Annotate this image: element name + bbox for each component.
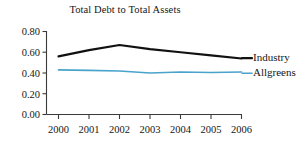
legend-label-industry: Industry bbox=[253, 51, 290, 63]
x-tick-label: 2000 bbox=[48, 124, 69, 135]
x-axis-labels: 2000 2001 2002 2003 2004 2005 2006 bbox=[48, 124, 252, 135]
y-tick-label: 0.60 bbox=[22, 47, 40, 58]
series-line-allgreens bbox=[59, 70, 242, 73]
x-axis-ticks bbox=[59, 115, 242, 120]
chart-figure: Total Debt to Total Assets 0.80 0.60 0.4… bbox=[0, 0, 307, 145]
y-tick-label: 0.40 bbox=[22, 68, 40, 79]
x-tick-label: 2006 bbox=[231, 124, 252, 135]
x-tick-label: 2005 bbox=[201, 124, 222, 135]
chart-legend: Industry Allgreens bbox=[242, 51, 296, 78]
y-tick-label: 0.20 bbox=[22, 89, 40, 100]
series-line-industry bbox=[59, 45, 242, 58]
x-tick-label: 2004 bbox=[170, 124, 192, 135]
y-tick-label: 0.00 bbox=[22, 109, 40, 120]
x-tick-label: 2002 bbox=[109, 124, 130, 135]
x-tick-label: 2003 bbox=[140, 124, 161, 135]
line-chart-plot: 0.80 0.60 0.40 0.20 0.00 2000 2001 2002 … bbox=[0, 0, 307, 145]
y-tick-label: 0.80 bbox=[22, 26, 40, 37]
y-axis-labels: 0.80 0.60 0.40 0.20 0.00 bbox=[22, 26, 40, 120]
legend-label-allgreens: Allgreens bbox=[253, 66, 296, 78]
x-tick-label: 2001 bbox=[79, 124, 100, 135]
y-axis-ticks bbox=[43, 32, 47, 115]
